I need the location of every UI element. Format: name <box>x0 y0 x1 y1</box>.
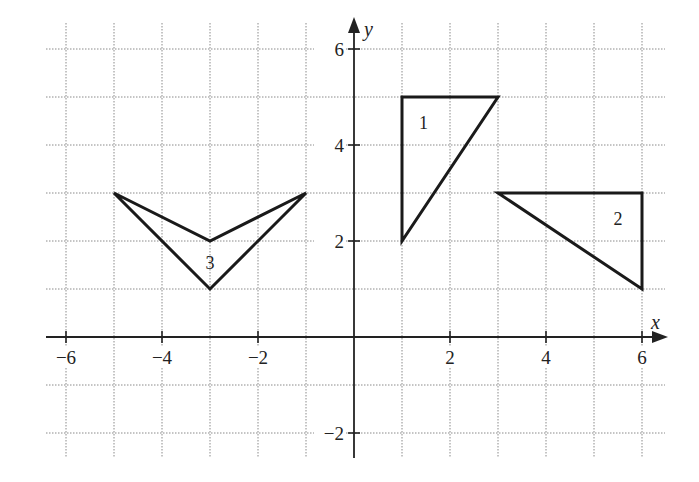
x-axis-label: x <box>650 311 660 333</box>
shape-label-2: 2 <box>614 209 623 229</box>
x-tick-label: −4 <box>152 347 173 368</box>
x-tick-label: 4 <box>541 347 551 368</box>
y-tick-label: 6 <box>335 39 345 60</box>
shape-label-3: 3 <box>206 253 215 273</box>
x-tick-label: 2 <box>445 347 455 368</box>
axes: x y <box>46 17 668 458</box>
x-tick-label: −2 <box>248 347 268 368</box>
coordinate-plane: x y −6−4−2246642−2 123 <box>0 0 699 482</box>
y-tick-label: 2 <box>335 231 345 252</box>
y-axis-label: y <box>362 18 373 41</box>
x-tick-label: −6 <box>56 347 76 368</box>
y-tick-label: 4 <box>335 135 345 156</box>
x-tick-label: 6 <box>637 347 647 368</box>
shape-label-1: 1 <box>419 113 428 133</box>
y-axis-arrow-icon <box>348 17 360 33</box>
y-tick-label: −2 <box>324 423 344 444</box>
